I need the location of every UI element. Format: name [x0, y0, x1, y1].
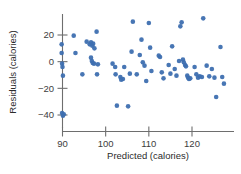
- data-point: [60, 65, 65, 70]
- plot-canvas: 200−20−40 90100110120 Predicted (calorie…: [0, 0, 241, 174]
- data-point: [200, 75, 205, 80]
- data-point: [59, 51, 64, 56]
- x-axis-group: 90100110120: [57, 127, 234, 150]
- x-tick-labels: 90100110120: [57, 138, 200, 149]
- data-point: [91, 41, 96, 46]
- data-point: [174, 73, 179, 78]
- y-tick-label-1: 0: [49, 56, 54, 67]
- data-point: [170, 44, 175, 49]
- data-point: [144, 79, 149, 84]
- data-point: [179, 20, 184, 25]
- y-tick-label-0: 20: [43, 29, 54, 40]
- data-point: [73, 51, 78, 56]
- data-point: [71, 33, 76, 38]
- data-point: [121, 77, 126, 82]
- data-point: [161, 76, 166, 81]
- data-point: [113, 72, 118, 77]
- scatter-plot-figure: 200−20−40 90100110120 Predicted (calorie…: [0, 0, 241, 174]
- data-point: [188, 76, 193, 81]
- data-point: [94, 29, 99, 34]
- data-point: [218, 45, 223, 50]
- data-point: [220, 75, 225, 80]
- data-point: [158, 55, 163, 60]
- data-point: [131, 19, 136, 24]
- data-point: [148, 45, 153, 50]
- data-point: [184, 64, 189, 69]
- x-tick-label-1: 100: [98, 138, 114, 149]
- data-point: [92, 46, 97, 51]
- data-point: [201, 16, 206, 21]
- data-point: [129, 49, 134, 54]
- data-point: [168, 71, 173, 76]
- data-point: [80, 72, 85, 77]
- data-point: [192, 65, 197, 70]
- data-point: [61, 112, 66, 117]
- data-point: [207, 74, 212, 79]
- y-axis-title: Residuals (calories): [7, 30, 18, 113]
- data-point: [115, 103, 120, 108]
- data-point: [61, 73, 66, 78]
- data-point: [92, 61, 97, 66]
- x-tick-label-2: 110: [141, 138, 156, 149]
- data-point: [139, 37, 144, 42]
- y-tick-label-2: −20: [38, 83, 54, 94]
- data-point: [222, 81, 227, 86]
- data-point: [137, 53, 142, 58]
- data-point: [149, 69, 154, 74]
- data-point: [204, 63, 209, 68]
- data-point: [210, 67, 215, 72]
- data-point: [128, 71, 133, 76]
- x-axis-title: Predicted (calories): [107, 150, 189, 161]
- data-point: [166, 63, 171, 68]
- y-tick-label-3: −40: [38, 109, 54, 120]
- data-point: [122, 65, 127, 70]
- data-point: [59, 42, 64, 47]
- data-point: [212, 75, 217, 80]
- data-point: [113, 65, 118, 70]
- data-point: [147, 21, 152, 26]
- y-axis-group: 200−20−40: [38, 14, 68, 128]
- data-point: [126, 104, 131, 109]
- y-tick-labels: 200−20−40: [38, 29, 54, 120]
- data-point: [96, 62, 101, 67]
- data-point: [134, 72, 139, 77]
- x-tick-label-3: 120: [184, 138, 200, 149]
- data-point: [172, 67, 177, 72]
- data-point: [95, 72, 100, 77]
- data-point: [159, 70, 164, 75]
- data-points-layer: [59, 16, 226, 118]
- data-point: [142, 63, 147, 68]
- x-tick-label-0: 90: [57, 138, 68, 149]
- data-point: [214, 95, 219, 100]
- data-point: [178, 24, 183, 29]
